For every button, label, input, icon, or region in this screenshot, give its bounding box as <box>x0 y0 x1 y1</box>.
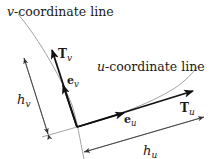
u-coordinate-curve <box>42 66 198 137</box>
hu-label: hu <box>143 143 157 159</box>
tv-label: Tv <box>58 47 72 63</box>
hv-label: hv <box>17 92 30 109</box>
eu-label: eu <box>124 113 136 128</box>
coordinate-lines-diagram: v-coordinate line u-coordinate line Tv e… <box>0 0 216 159</box>
v-coordinate-line-label: v-coordinate line <box>7 4 114 19</box>
hv-dimension-arrow-reverse <box>24 58 48 134</box>
u-coordinate-line-label: u-coordinate line <box>97 59 205 74</box>
ev-vector-arrow <box>63 85 77 127</box>
ev-label: ev <box>67 74 79 89</box>
eu-vector-arrow <box>77 113 124 127</box>
tu-label: Tu <box>180 101 195 117</box>
